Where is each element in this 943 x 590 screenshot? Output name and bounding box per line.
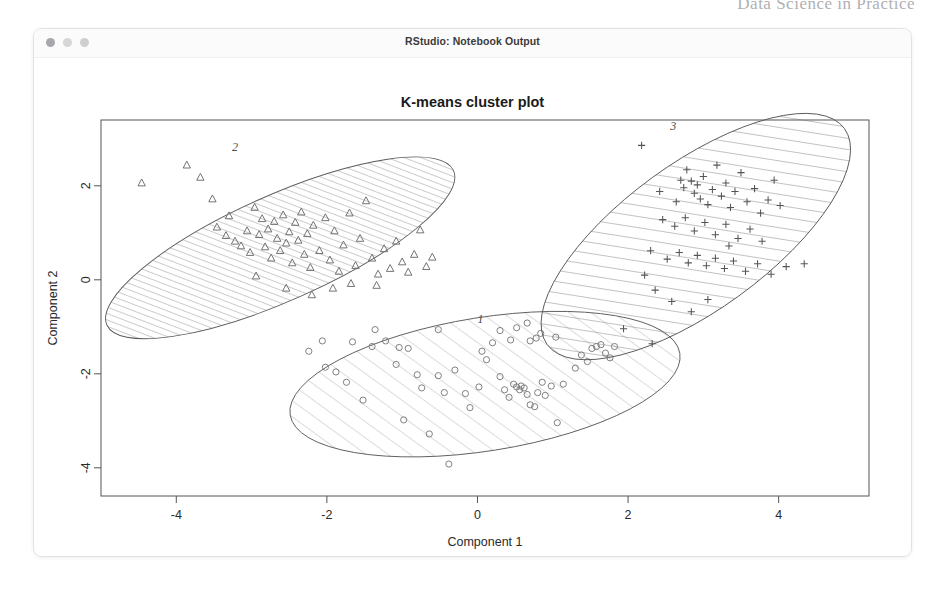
data-point [429, 253, 436, 260]
data-point [801, 260, 808, 267]
svg-text:Component 2: Component 2 [46, 270, 60, 345]
data-point [306, 348, 312, 354]
data-point [638, 142, 645, 149]
rstudio-notebook-output-window: RStudio: Notebook Output K-means cluster… [33, 28, 912, 557]
svg-text:4: 4 [775, 508, 782, 522]
svg-text:2: 2 [625, 508, 632, 522]
data-point [183, 161, 190, 168]
svg-text:0: 0 [79, 276, 93, 283]
kmeans-cluster-plot: -4-202420-2-4Component 1Component 2These… [34, 58, 911, 556]
cluster-label-1: 1 [477, 312, 483, 326]
data-point [411, 250, 418, 257]
svg-text:Component 1: Component 1 [447, 535, 522, 549]
svg-text:-4: -4 [79, 462, 93, 473]
data-point [783, 263, 790, 270]
data-point [386, 265, 393, 272]
svg-text:2: 2 [79, 182, 93, 189]
running-header: Data Science in Practice [737, 0, 915, 14]
window-title: RStudio: Notebook Output [34, 35, 911, 47]
data-point [349, 339, 355, 345]
cluster-label-3: 3 [669, 119, 676, 133]
svg-text:-2: -2 [79, 368, 93, 379]
data-point [398, 258, 405, 265]
cluster-group-3: 3 [504, 69, 887, 404]
data-point [446, 461, 452, 467]
plot-body: K-means cluster plot -4-202420-2-4Compon… [34, 58, 911, 556]
data-point [373, 281, 380, 288]
svg-text:-2: -2 [321, 508, 332, 522]
svg-text:0: 0 [474, 508, 481, 522]
data-point [319, 338, 325, 344]
svg-text:-4: -4 [171, 508, 182, 522]
window-titlebar: RStudio: Notebook Output [34, 29, 911, 58]
data-point [374, 270, 381, 277]
cluster-ellipse-3 [504, 69, 887, 404]
screenshot-root: Data Science in Practice RStudio: Notebo… [0, 0, 943, 590]
data-point [347, 280, 354, 287]
data-point [197, 173, 204, 180]
data-point [209, 195, 216, 202]
data-point [405, 268, 412, 275]
cluster-label-2: 2 [232, 140, 238, 154]
data-point [372, 327, 378, 333]
data-point [423, 263, 430, 270]
data-point [329, 284, 336, 291]
data-point [138, 179, 145, 186]
